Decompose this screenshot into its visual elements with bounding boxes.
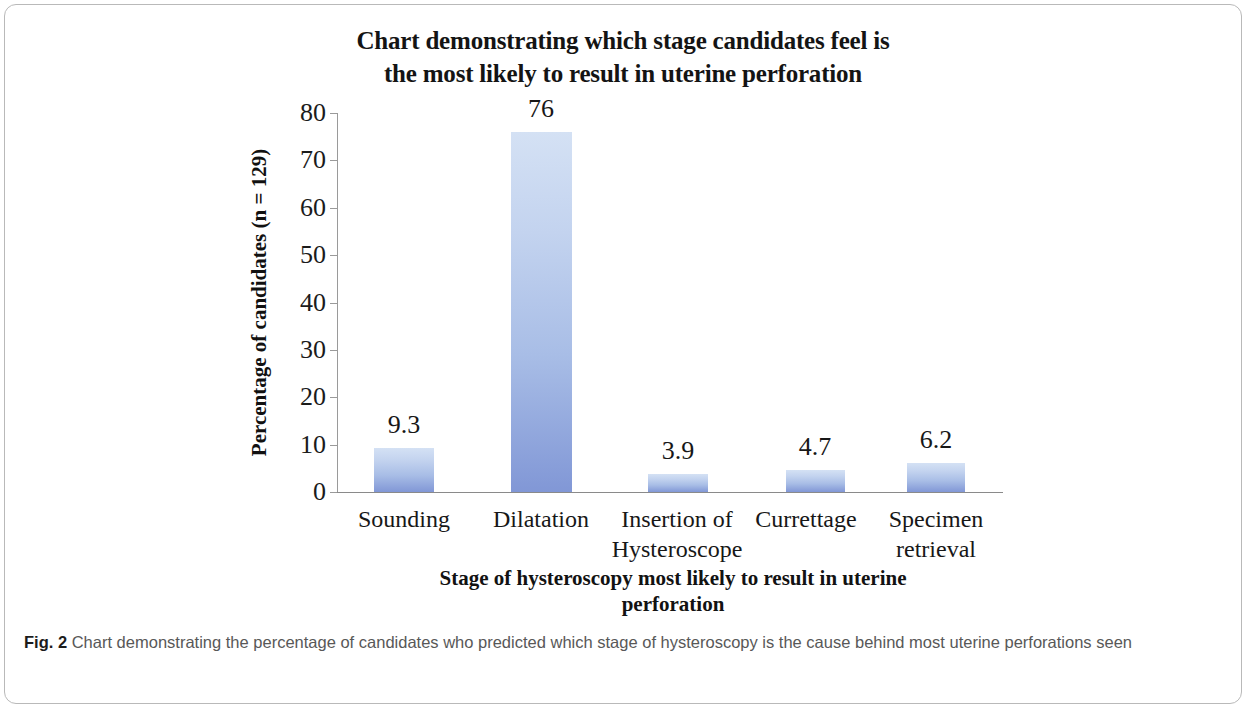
x-category-line-1: Insertion of: [612, 504, 743, 534]
x-category-line-1: Sounding: [358, 504, 450, 534]
bar-value-label-currettage: 4.7: [799, 432, 832, 462]
x-axis-title-line-2: perforation: [373, 591, 973, 617]
y-tick-label: 10: [300, 430, 326, 460]
x-category-label-insertion-of-hysteroscope: Insertion of Hysteroscope: [612, 504, 743, 564]
y-tick-label: 20: [300, 382, 326, 412]
y-axis-title: Percentage of candidates (n = 129): [244, 113, 274, 492]
y-tick-label: 40: [300, 288, 326, 318]
bar-value-label-dilatation: 76: [528, 94, 554, 124]
y-tick-mark: [330, 397, 337, 398]
x-axis-title-line-1: Stage of hysteroscopy most likely to res…: [373, 565, 973, 591]
x-category-label-specimen-retrieval: Specimen retrieval: [889, 504, 984, 564]
y-tick-mark: [330, 303, 337, 304]
figure-number: Fig. 2: [24, 633, 67, 651]
bar-insertion-of-hysteroscope[interactable]: [648, 474, 708, 492]
y-tick-mark: [330, 445, 337, 446]
figure-caption-text: Chart demonstrating the percentage of ca…: [72, 633, 1132, 651]
y-tick-label: 50: [300, 240, 326, 270]
chart-title-line-2: the most likely to result in uterine per…: [263, 57, 983, 90]
bar-currettage[interactable]: [786, 470, 845, 492]
chart-title-line-1: Chart demonstrating which stage candidat…: [263, 24, 983, 57]
bar-value-label-insertion-of-hysteroscope: 3.9: [662, 436, 695, 466]
y-tick-label: 60: [300, 193, 326, 223]
x-category-label-sounding: Sounding: [358, 504, 450, 534]
y-tick-label: 0: [313, 477, 326, 507]
x-category-line-1: Specimen: [889, 504, 984, 534]
x-category-line-2: retrieval: [889, 534, 984, 564]
y-tick-label: 80: [300, 98, 326, 128]
bar-dilatation[interactable]: [511, 132, 572, 492]
y-tick-mark: [330, 492, 337, 493]
figure-caption: Fig. 2 Chart demonstrating the percentag…: [24, 629, 1189, 656]
y-axis-line: [337, 113, 338, 492]
y-tick-label: 70: [300, 145, 326, 175]
y-tick-mark: [330, 208, 337, 209]
x-category-label-dilatation: Dilatation: [493, 504, 589, 534]
y-tick-label: 30: [300, 335, 326, 365]
x-category-line-1: Currettage: [755, 504, 856, 534]
plot-area: 80 70 60 50 40 30: [337, 113, 1003, 492]
x-category-line-2: Hysteroscope: [612, 534, 743, 564]
bar-value-label-specimen-retrieval: 6.2: [920, 425, 953, 455]
x-category-line-1: Dilatation: [493, 504, 589, 534]
y-tick-mark: [330, 160, 337, 161]
y-tick-mark: [330, 255, 337, 256]
bar-sounding[interactable]: [374, 448, 434, 492]
x-axis-title: Stage of hysteroscopy most likely to res…: [373, 565, 973, 617]
chart-figure: Chart demonstrating which stage candidat…: [0, 0, 1246, 614]
y-tick-mark: [330, 350, 337, 351]
chart-title: Chart demonstrating which stage candidat…: [263, 24, 983, 90]
y-tick-mark: [330, 113, 337, 114]
bar-value-label-sounding: 9.3: [388, 410, 421, 440]
x-axis-line: [337, 492, 1003, 493]
bar-specimen-retrieval[interactable]: [907, 463, 965, 492]
x-category-label-currettage: Currettage: [755, 504, 856, 534]
